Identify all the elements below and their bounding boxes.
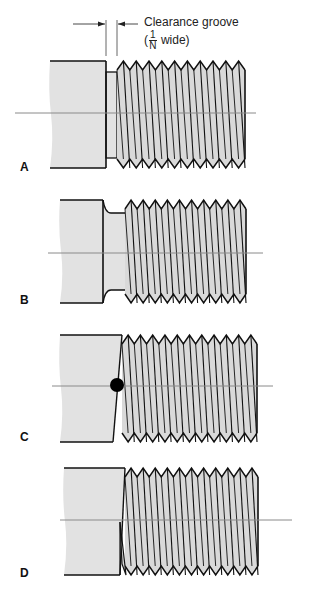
threaded-section [122,335,257,442]
shaft-body [63,468,125,575]
clearance-groove-dimension [73,20,138,56]
thread-runout-diagram [0,0,309,595]
panel-a [15,61,256,168]
panel-d [60,468,292,575]
threaded-section [117,61,245,168]
shaft-body [59,200,103,303]
arrow-left-icon [118,22,125,27]
panel-label-d: D [20,566,29,580]
arrow-right-icon [98,22,105,27]
rectangular-groove [106,72,117,158]
panel-label-a: A [20,160,29,174]
ball-relief-icon [110,378,124,392]
clearance-groove-callout: Clearance groove (1N wide) [144,15,239,51]
threaded-section [125,468,258,575]
threaded-section [125,200,246,303]
panel-label-c: C [20,430,29,444]
shaft-body [49,61,106,168]
rounded-groove [103,200,125,303]
panel-c [52,335,273,442]
fraction-1-over-n: 1N [149,30,157,51]
callout-label: Clearance groove [144,15,239,29]
panel-label-b: B [20,293,29,307]
panel-b [48,200,263,303]
callout-width: (1N wide) [144,30,239,51]
